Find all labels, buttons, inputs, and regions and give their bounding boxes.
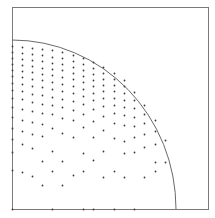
mesh-point [32, 122, 34, 124]
mesh-point [42, 124, 44, 126]
point-cloud [12, 46, 167, 211]
mesh-point [22, 53, 24, 55]
mesh-point [83, 153, 85, 155]
mesh-point [52, 89, 54, 91]
mesh-point [73, 67, 75, 69]
mesh-point [83, 209, 85, 211]
mesh-point [73, 86, 75, 88]
mesh-point [155, 144, 157, 146]
mesh-point [83, 96, 85, 98]
mesh-point [12, 139, 14, 141]
mesh-point [93, 209, 95, 211]
quarter-circle-arc [12, 40, 176, 209]
mesh-point [62, 77, 64, 79]
mesh-point [103, 79, 105, 81]
mesh-point [32, 134, 34, 136]
diagram-canvas [0, 0, 215, 218]
mesh-point [62, 99, 64, 101]
mesh-point [52, 114, 54, 116]
mesh-point [32, 86, 34, 88]
mesh-point [22, 109, 24, 111]
mesh-point [22, 144, 24, 146]
mesh-point [42, 55, 44, 57]
mesh-point [12, 117, 14, 119]
mesh-point [124, 125, 126, 127]
mesh-point [32, 79, 34, 81]
mesh-point [32, 111, 34, 113]
mesh-point [93, 93, 95, 95]
mesh-point [12, 90, 14, 92]
mesh-point [93, 137, 95, 139]
mesh-point [52, 97, 54, 99]
mesh-point [134, 137, 136, 139]
mesh-point [12, 170, 14, 172]
mesh-point [134, 209, 136, 211]
mesh-point [124, 107, 126, 109]
mesh-point [52, 57, 54, 59]
mesh-point [12, 70, 14, 72]
mesh-point [32, 176, 34, 178]
mesh-point [155, 131, 157, 133]
mesh-point [42, 104, 44, 106]
mesh-point [42, 161, 44, 163]
mesh-point [144, 134, 146, 136]
mesh-point [83, 76, 85, 78]
mesh-point [124, 93, 126, 95]
mesh-point [73, 79, 75, 81]
mesh-point [62, 52, 64, 54]
mesh-point [12, 152, 14, 154]
mesh-point [144, 123, 146, 125]
mesh-point [62, 185, 64, 187]
mesh-point [155, 171, 157, 173]
mesh-point [73, 55, 75, 57]
mesh-point [73, 93, 75, 95]
mesh-point [22, 84, 24, 86]
mesh-point [83, 58, 85, 60]
mesh-point [144, 114, 146, 116]
mesh-point [134, 126, 136, 128]
mesh-point [22, 99, 24, 101]
mesh-point [12, 107, 14, 109]
mesh-point [83, 89, 85, 91]
mesh-point [134, 108, 136, 110]
mesh-point [114, 171, 116, 173]
mesh-point [114, 209, 116, 211]
mesh-point [52, 209, 54, 211]
mesh-point [103, 98, 105, 100]
mesh-point [52, 128, 54, 130]
mesh-point [62, 58, 64, 60]
mesh-point [155, 120, 157, 122]
mesh-point [93, 86, 95, 88]
mesh-point [93, 100, 95, 102]
mesh-point [124, 80, 126, 82]
mesh-point [114, 105, 116, 107]
mesh-point [114, 113, 116, 115]
mesh-point [114, 85, 116, 87]
mesh-point [52, 63, 54, 65]
mesh-point [42, 185, 44, 187]
mesh-point [165, 140, 167, 142]
mesh-point [124, 115, 126, 117]
mesh-point [22, 77, 24, 79]
mesh-point [42, 87, 44, 89]
mesh-point [22, 172, 24, 174]
mesh-point [52, 69, 54, 71]
mesh-point [12, 128, 14, 130]
mesh-point [103, 73, 105, 75]
mesh-point [155, 162, 157, 164]
mesh-point [165, 162, 167, 164]
mesh-point [93, 62, 95, 64]
mesh-point [93, 109, 95, 111]
mesh-point [62, 133, 64, 135]
mesh-point [134, 92, 136, 94]
mesh-point [52, 50, 54, 52]
mesh-point [22, 120, 24, 122]
mesh-point [83, 64, 85, 66]
mesh-point [114, 91, 116, 93]
mesh-point [134, 117, 136, 119]
mesh-point [93, 68, 95, 70]
mesh-point [73, 120, 75, 122]
mesh-point [83, 70, 85, 72]
mesh-point [22, 59, 24, 61]
mesh-point [62, 161, 64, 163]
